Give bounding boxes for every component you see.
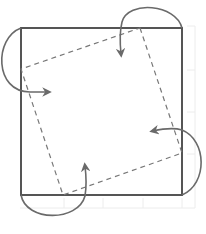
arrow-bottom-right-icon (153, 128, 201, 195)
outer-square (21, 28, 182, 195)
arrow-top-right-icon (120, 8, 182, 54)
rotation-arrows (2, 8, 201, 216)
inner-rotated-square (21, 28, 182, 195)
rotation-diagram (0, 0, 206, 234)
arrow-top-left-icon (2, 28, 48, 92)
background-grid (20, 26, 195, 208)
